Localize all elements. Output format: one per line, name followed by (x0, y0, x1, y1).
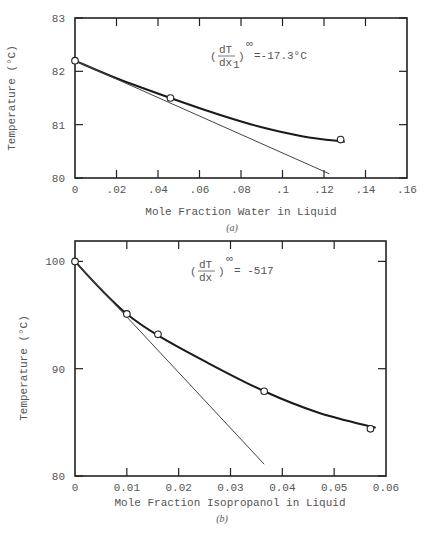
data-series (72, 57, 345, 173)
plot-frame (75, 241, 386, 476)
x-axis-title: Mole Fraction Isopropanol in Liquid (114, 497, 345, 509)
fitted-curve (75, 61, 345, 142)
panel-caption-a: (a) (226, 222, 238, 234)
tangent-line (75, 261, 264, 464)
figure: 80818283 0.02.04.06.08.1.12.14.16 Temper… (0, 0, 427, 536)
x-tick-label: 0 (72, 482, 79, 494)
annotation-value: = -517 (234, 265, 274, 277)
annotation-denominator: dx (219, 57, 233, 69)
x-tick-label: 0.05 (321, 482, 347, 494)
annotation-superscript: ∞ (226, 253, 233, 265)
x-tick-label: .02 (107, 184, 127, 196)
annotation-superscript: ∞ (246, 38, 253, 50)
y-tick-label: 90 (52, 364, 65, 376)
x-tick-label: .04 (148, 184, 168, 196)
x-tick-label: .06 (190, 184, 210, 196)
paren-open: ( (210, 51, 217, 63)
limiting-slope-annotation: (dTdx)∞= -517 (190, 253, 274, 284)
tangent-line (75, 61, 329, 174)
y-axis-ticks: 80818283 (52, 13, 407, 185)
y-axis-title: Temperature (°C) (6, 45, 18, 151)
y-tick-label: 80 (52, 173, 65, 185)
plot-frame (75, 18, 407, 178)
x-tick-label: 0.02 (165, 482, 191, 494)
chart-panel-b: 8090100 00.010.020.030.040.050.06 Temper… (18, 241, 399, 525)
x-tick-label: 0.04 (269, 482, 296, 494)
x-tick-label: .14 (356, 184, 376, 196)
x-tick-label: .08 (231, 184, 251, 196)
data-point (367, 425, 374, 432)
y-tick-label: 83 (52, 13, 65, 25)
data-point (72, 57, 79, 64)
x-tick-label: .12 (314, 184, 334, 196)
x-tick-label: 0.01 (114, 482, 141, 494)
x-tick-label: .16 (397, 184, 417, 196)
chart-panel-a: 80818283 0.02.04.06.08.1.12.14.16 Temper… (6, 13, 417, 234)
data-point (155, 331, 162, 338)
y-tick-label: 80 (52, 471, 65, 483)
panel-caption-b: (b) (216, 513, 228, 525)
fitted-curve (75, 261, 376, 427)
annotation-value: =-17.3°C (254, 50, 307, 62)
data-point (167, 95, 174, 102)
paren-close: ) (218, 266, 225, 278)
data-point (124, 311, 131, 318)
x-tick-label: 0.06 (373, 482, 399, 494)
x-axis-ticks: 00.010.020.030.040.050.06 (72, 241, 400, 494)
annotation-numerator: dT (219, 44, 233, 56)
data-point (261, 388, 268, 395)
data-series (72, 258, 376, 464)
data-point (337, 136, 344, 143)
data-point (72, 258, 79, 265)
x-tick-label: 0.03 (217, 482, 243, 494)
limiting-slope-annotation: (dTdx1)∞=-17.3°C (210, 38, 307, 71)
y-tick-label: 81 (52, 120, 66, 132)
annotation-denominator: dx (199, 272, 213, 284)
annotation-numerator: dT (199, 259, 213, 271)
y-tick-label: 82 (52, 66, 65, 78)
x-axis-ticks: 0.02.04.06.08.1.12.14.16 (72, 18, 417, 196)
y-axis-title: Temperature (°C) (18, 315, 30, 421)
x-axis-title: Mole Fraction Water in Liquid (145, 206, 336, 218)
paren-open: ( (190, 266, 197, 278)
y-tick-label: 100 (45, 256, 65, 268)
paren-close: ) (238, 51, 245, 63)
x-tick-label: 0 (72, 184, 79, 196)
x-tick-label: .1 (276, 184, 290, 196)
y-axis-ticks: 8090100 (45, 256, 386, 483)
